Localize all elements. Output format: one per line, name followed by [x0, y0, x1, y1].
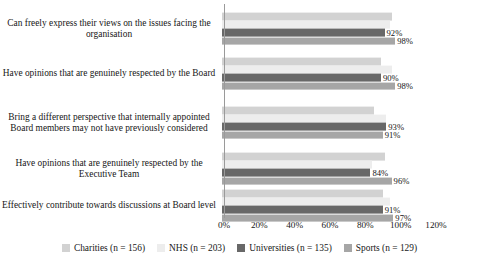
bar-segment	[222, 169, 370, 177]
bar-group: Have opinions that are genuinely respect…	[0, 152, 479, 186]
category-label: Bring a different perspective that inter…	[0, 112, 222, 135]
bar-segment	[222, 190, 383, 198]
bar-value-label: 84%	[372, 168, 388, 177]
bar-segment	[222, 66, 392, 74]
legend-item[interactable]: NHS (n = 203)	[157, 243, 225, 253]
legend-label: Sports (n = 129)	[356, 243, 417, 253]
grouped-bar-chart: Can freely express their views on the is…	[0, 0, 479, 271]
bar-segment	[222, 107, 374, 115]
bar-segment	[222, 161, 372, 169]
x-tick-label: 80%	[357, 219, 374, 231]
bars-container: 92%98%	[222, 10, 475, 48]
category-label: Have opinions that are genuinely respect…	[0, 68, 222, 79]
x-tick-label: 100%	[390, 219, 411, 231]
bars-container: 91%97%	[222, 190, 475, 222]
bar-segment	[222, 198, 390, 206]
value-axis-line	[224, 4, 225, 218]
legend-label: NHS (n = 203)	[169, 243, 225, 253]
bar-value-label: 96%	[394, 177, 410, 186]
bar-group: Have opinions that are genuinely respect…	[0, 55, 479, 93]
legend-swatch-icon	[62, 244, 70, 252]
legend-item[interactable]: Charities (n = 156)	[62, 243, 145, 253]
bar-segment	[222, 74, 381, 82]
bar-segment	[222, 21, 390, 29]
bar-segment	[222, 115, 386, 123]
x-tick-label: 40%	[286, 219, 303, 231]
bars-container: 84%96%	[222, 152, 475, 186]
legend-item[interactable]: Sports (n = 129)	[344, 243, 417, 253]
bar-segment	[222, 123, 386, 131]
category-label: Effectively contribute towards discussio…	[0, 200, 222, 211]
bar-value-label: 98%	[397, 37, 413, 46]
bar-segment	[222, 131, 383, 139]
x-tick-label: 20%	[251, 219, 268, 231]
bar-segment	[222, 13, 392, 21]
bar-segment	[222, 29, 385, 37]
x-tick-label: 60%	[322, 219, 339, 231]
bar-segment	[222, 206, 383, 214]
x-axis-tick-labels: 0%20%40%60%80%100%120%	[224, 219, 436, 233]
bars-container: 93%91%	[222, 100, 475, 146]
bar-segment	[222, 177, 392, 185]
bar-segment	[222, 58, 381, 66]
plot-area: Can freely express their views on the is…	[0, 4, 479, 218]
bar-group: Effectively contribute towards discussio…	[0, 190, 479, 222]
legend-swatch-icon	[237, 244, 245, 252]
legend-swatch-icon	[157, 244, 165, 252]
legend-swatch-icon	[344, 244, 352, 252]
legend-item[interactable]: Universities (n = 135)	[237, 243, 332, 253]
x-tick-label: 120%	[425, 219, 446, 231]
bar-group: Bring a different perspective that inter…	[0, 100, 479, 146]
bars-container: 90%98%	[222, 55, 475, 93]
bar-value-label: 91%	[385, 131, 401, 140]
category-label: Have opinions that are genuinely respect…	[0, 158, 222, 181]
bar-value-label: 98%	[397, 82, 413, 91]
category-label: Can freely express their views on the is…	[0, 18, 222, 41]
bar-segment	[222, 37, 395, 45]
legend-label: Charities (n = 156)	[74, 243, 145, 253]
bar-group: Can freely express their views on the is…	[0, 10, 479, 48]
x-tick-label: 0%	[218, 219, 230, 231]
bar-segment	[222, 82, 395, 90]
bar-segment	[222, 153, 385, 161]
chart-legend: Charities (n = 156)NHS (n = 203)Universi…	[0, 243, 479, 253]
legend-label: Universities (n = 135)	[249, 243, 332, 253]
